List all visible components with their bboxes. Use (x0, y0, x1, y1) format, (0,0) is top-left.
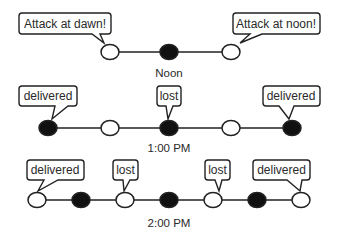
node-open (116, 193, 134, 208)
node-filled (248, 193, 266, 208)
speech-bubble: Attack at dawn! (19, 13, 111, 43)
bubble-text: delivered (267, 89, 316, 103)
relay-diagram: Attack at dawn! Attack at noon! Noon del… (0, 0, 338, 241)
bubble-text: delivered (257, 163, 306, 177)
bubble-text: delivered (24, 89, 73, 103)
bubble-text: delivered (31, 163, 80, 177)
node-filled (283, 121, 301, 136)
node-open (222, 45, 240, 60)
bubble-text: Attack at dawn! (24, 17, 106, 31)
time-label: Noon (155, 67, 183, 79)
bubble-text: lost (160, 89, 179, 103)
speech-bubble: delivered (27, 160, 84, 191)
speech-bubble: delivered (263, 86, 320, 119)
speech-bubble: delivered (19, 86, 77, 119)
bubble-text: Attack at noon! (236, 17, 316, 31)
speech-bubble: lost (113, 160, 138, 191)
speech-bubble: lost (157, 86, 181, 119)
time-label: 1:00 PM (148, 142, 191, 154)
node-filled (39, 121, 57, 136)
node-filled (160, 193, 178, 208)
node-filled (160, 45, 178, 60)
node-open (101, 121, 119, 136)
row-2pm: delivered lost lost delivered 2:00 PM (27, 160, 310, 229)
speech-bubble: delivered (253, 160, 310, 191)
node-open (28, 193, 46, 208)
row-noon: Attack at dawn! Attack at noon! Noon (19, 13, 320, 79)
row-1pm: delivered lost delivered 1:00 PM (19, 86, 320, 154)
speech-bubble: lost (205, 160, 230, 191)
node-filled (72, 193, 90, 208)
node-open (204, 193, 222, 208)
time-label: 2:00 PM (148, 217, 191, 229)
speech-bubble: Attack at noon! (233, 13, 320, 43)
bubble-text: lost (116, 163, 135, 177)
node-open (222, 121, 240, 136)
node-open (101, 45, 119, 60)
node-open (292, 193, 310, 208)
node-filled (160, 121, 178, 136)
bubble-text: lost (208, 163, 227, 177)
